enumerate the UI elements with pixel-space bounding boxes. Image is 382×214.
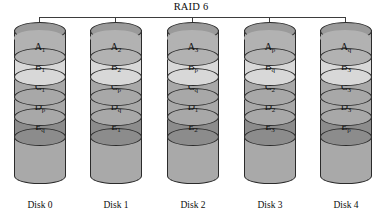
raid6-diagram: RAID 6 A1B1C1DpEqDisk 0A2B2CpDqE1Disk 1A… bbox=[0, 0, 382, 214]
stripe-label: Ap bbox=[245, 41, 295, 53]
stripe-block-A1[interactable]: A1 bbox=[14, 38, 66, 58]
cylinder-bottom-cap bbox=[167, 167, 219, 184]
disk-caption: Disk 1 bbox=[80, 200, 152, 210]
cylinder-bottom-cap bbox=[90, 167, 142, 184]
disk-caption: Disk 3 bbox=[234, 200, 306, 210]
stripe-block-Aq[interactable]: Aq bbox=[320, 38, 372, 58]
stripe-block-A2[interactable]: A2 bbox=[90, 38, 142, 58]
stripe-block-Ap[interactable]: Ap bbox=[244, 38, 296, 58]
disk-caption: Disk 2 bbox=[157, 200, 229, 210]
stripe-label: Aq bbox=[321, 41, 371, 53]
stripe-label: A2 bbox=[91, 41, 141, 53]
diagram-title: RAID 6 bbox=[0, 1, 382, 12]
disk-caption: Disk 0 bbox=[4, 200, 76, 210]
cylinder-bottom-cap bbox=[320, 167, 372, 184]
stripe-label: A1 bbox=[15, 41, 65, 53]
stripe-label: A3 bbox=[168, 41, 218, 53]
cylinder-bottom-cap bbox=[244, 167, 296, 184]
stripe-block-A3[interactable]: A3 bbox=[167, 38, 219, 58]
disk-caption: Disk 4 bbox=[310, 200, 382, 210]
cylinder-bottom-cap bbox=[14, 167, 66, 184]
